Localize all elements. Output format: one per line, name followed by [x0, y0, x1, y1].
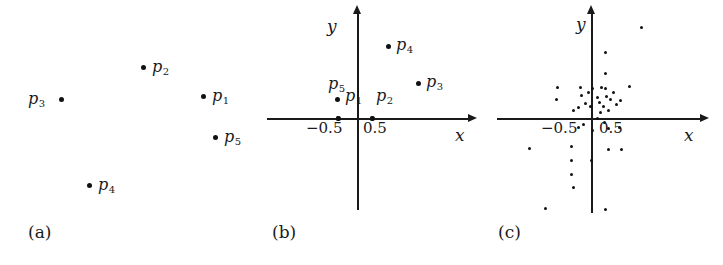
data-point — [591, 129, 594, 132]
data-point — [602, 105, 605, 108]
x-axis-arrow — [468, 114, 477, 122]
data-point — [572, 186, 575, 189]
panel-label-c: (c) — [498, 222, 521, 242]
figure-scatter-plots: p1p2p3p4p5xy−0.50.5p1p2p3p4p5xy−0.50.5(a… — [0, 0, 723, 265]
x-tick-marker — [336, 116, 341, 121]
point-label-p5: p5 — [328, 76, 345, 92]
data-point-p5 — [335, 97, 340, 102]
data-point — [604, 87, 607, 90]
y-axis-arrow — [353, 5, 361, 14]
data-point-p3 — [416, 81, 421, 86]
x-axis-arrow — [700, 114, 709, 122]
data-point — [570, 159, 573, 162]
data-point — [609, 98, 612, 101]
data-point — [570, 145, 573, 148]
point-label-p3: p3 — [28, 91, 45, 107]
data-point — [615, 103, 618, 106]
data-point — [628, 85, 631, 88]
data-point — [577, 106, 580, 109]
data-point — [619, 99, 622, 102]
x-tick-label: −0.5 — [541, 121, 577, 136]
data-point — [577, 126, 580, 129]
data-point — [618, 126, 621, 129]
x-axis-label: x — [455, 127, 465, 144]
point-label-p5: p5 — [224, 129, 241, 145]
data-point — [596, 117, 599, 120]
data-point — [556, 86, 559, 89]
data-point — [640, 26, 643, 29]
data-point — [555, 98, 558, 101]
x-axis-label: x — [684, 127, 694, 144]
data-point — [579, 86, 582, 89]
point-label-p4: p4 — [98, 177, 115, 193]
data-point — [604, 51, 607, 54]
data-point — [598, 101, 601, 104]
x-tick-label: −0.5 — [306, 121, 342, 136]
data-point — [607, 127, 610, 130]
y-axis-label: y — [576, 16, 586, 33]
data-point — [599, 111, 602, 114]
data-point — [591, 87, 594, 90]
data-point — [590, 159, 593, 162]
y-axis-arrow — [587, 5, 595, 14]
data-point — [580, 94, 583, 97]
data-point — [607, 148, 610, 151]
data-point — [603, 121, 606, 124]
panel-label-a: (a) — [28, 222, 51, 242]
data-point — [607, 109, 610, 112]
data-point — [612, 91, 615, 94]
data-point-p5 — [213, 135, 218, 140]
panel-label-b: (b) — [272, 222, 296, 242]
point-label-p1: p1 — [345, 88, 362, 104]
data-point — [620, 148, 623, 151]
point-label-p2: p2 — [376, 88, 393, 104]
data-point-p4 — [87, 183, 92, 188]
y-axis-line — [591, 14, 593, 213]
data-point — [570, 173, 573, 176]
data-point — [604, 72, 607, 75]
y-axis-label: y — [327, 18, 337, 35]
data-point-p1 — [201, 94, 206, 99]
data-point — [544, 207, 547, 210]
data-point — [572, 109, 575, 112]
data-point — [528, 147, 531, 150]
x-tick-marker — [370, 116, 375, 121]
y-axis-line — [357, 14, 359, 210]
data-point — [589, 105, 592, 108]
x-tick-label: 0.5 — [363, 121, 387, 136]
data-point — [582, 123, 585, 126]
point-label-p1: p1 — [212, 88, 229, 104]
point-label-p2: p2 — [152, 59, 169, 75]
data-point — [596, 96, 599, 99]
data-point-p4 — [386, 44, 391, 49]
data-point — [587, 91, 590, 94]
data-point — [600, 86, 603, 89]
point-label-p4: p4 — [396, 37, 413, 53]
data-point — [604, 208, 607, 211]
data-point — [605, 95, 608, 98]
data-point — [584, 102, 587, 105]
data-point-p3 — [59, 97, 64, 102]
point-label-p3: p3 — [426, 74, 443, 90]
data-point-p2 — [141, 65, 146, 70]
